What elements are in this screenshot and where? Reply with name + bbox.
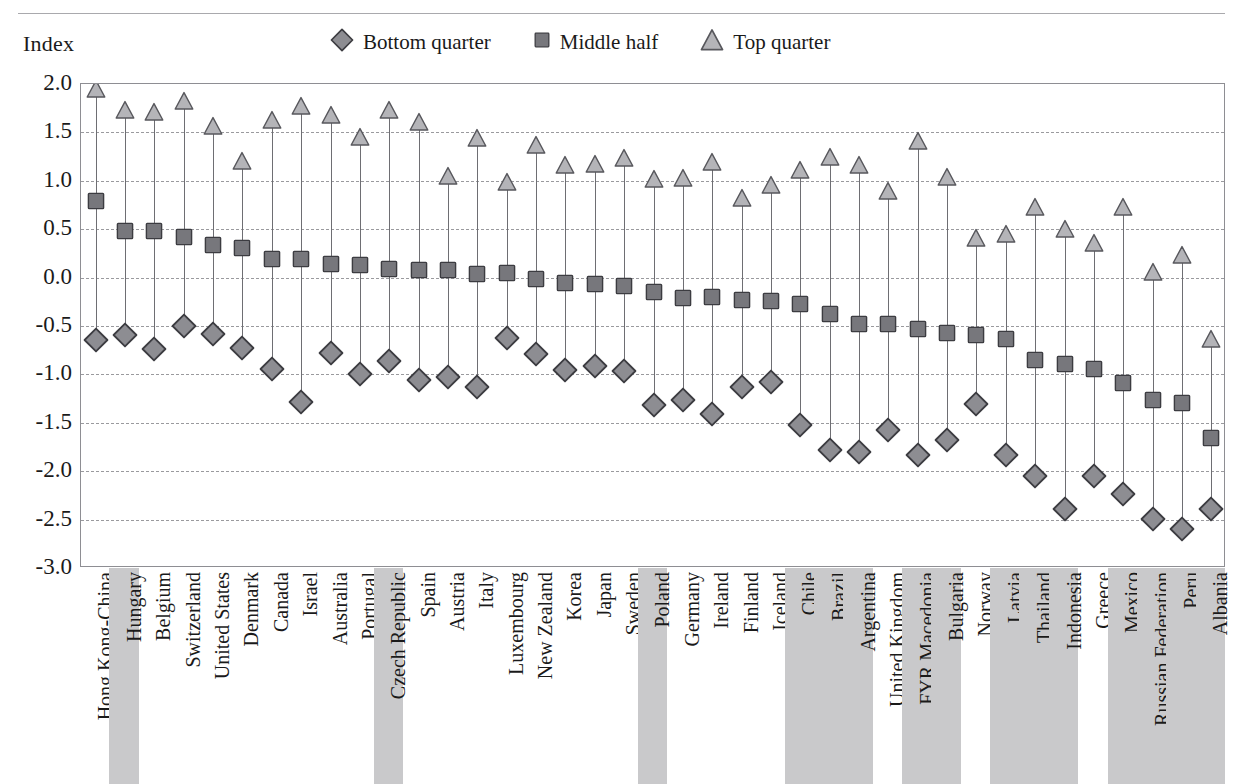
legend-item-top-quarter: Top quarter (700, 28, 830, 56)
data-point-square (291, 249, 311, 273)
diamond-icon (330, 28, 354, 56)
x-axis-category: Poland (638, 568, 667, 784)
data-point-square (1055, 354, 1075, 378)
data-point-square (321, 254, 341, 278)
data-point-triangle (1143, 262, 1163, 286)
data-point-square (174, 227, 194, 251)
range-stem (419, 124, 420, 382)
gridline (81, 471, 1224, 472)
legend-item-middle-half: Middle half (533, 30, 659, 55)
x-axis-category: Italy (462, 568, 491, 784)
range-stem (1035, 209, 1036, 478)
data-point-triangle (614, 148, 634, 172)
data-point-square (849, 314, 869, 338)
data-point-triangle (1201, 329, 1221, 353)
range-stem (624, 160, 625, 374)
x-axis-label-band: Hong Kong-ChinaHungaryBelgiumSwitzerland… (80, 568, 1225, 784)
data-point-square (115, 221, 135, 245)
data-point-square (937, 323, 957, 347)
y-tick-label: 1.5 (8, 118, 72, 144)
data-point-diamond (1140, 506, 1166, 536)
data-point-diamond (582, 353, 608, 383)
data-point-triangle (262, 110, 282, 134)
data-point-diamond (406, 367, 432, 397)
data-point-triangle (497, 172, 517, 196)
x-axis-category: Austria (432, 568, 461, 784)
data-point-square (761, 291, 781, 315)
data-point-square (497, 263, 517, 287)
data-point-diamond (523, 341, 549, 371)
data-point-diamond (200, 321, 226, 351)
data-point-triangle (585, 154, 605, 178)
data-point-triangle (379, 100, 399, 124)
data-point-triangle (702, 152, 722, 176)
data-point-triangle (467, 128, 487, 152)
gridline (81, 326, 1224, 327)
x-axis-category: Australia (315, 568, 344, 784)
x-axis-category: Finland (726, 568, 755, 784)
data-point-diamond (288, 389, 314, 419)
x-axis-category: Bulgaria (931, 568, 960, 784)
data-point-square (585, 274, 605, 298)
data-point-square (966, 325, 986, 349)
x-axis-category: Hungary (109, 568, 138, 784)
x-axis-category: Canada (256, 568, 285, 784)
range-stem (771, 187, 772, 384)
gridline (81, 229, 1224, 230)
x-axis-category: Ireland (697, 568, 726, 784)
data-point-triangle (937, 167, 957, 191)
data-point-square (409, 260, 429, 284)
gridline (81, 132, 1224, 133)
x-axis-category: Spain (403, 568, 432, 784)
x-axis-category: Russian Federation (1137, 568, 1166, 784)
data-point-triangle (86, 83, 106, 103)
data-point-triangle (144, 102, 164, 126)
data-point-diamond (1081, 463, 1107, 493)
x-axis-category: Iceland (755, 568, 784, 784)
range-stem (1211, 341, 1212, 511)
x-axis-category: United States (197, 568, 226, 784)
x-axis-category: Luxembourg (491, 568, 520, 784)
range-stem (859, 167, 860, 454)
y-tick-label: -2.0 (8, 457, 72, 483)
data-point-square (438, 260, 458, 284)
plot-area (80, 83, 1225, 567)
data-point-square (144, 221, 164, 245)
data-point-square (379, 259, 399, 283)
range-stem (976, 240, 977, 406)
chart-legend: Bottom quarterMiddle halfTop quarter (330, 28, 830, 56)
data-point-triangle (878, 181, 898, 205)
data-point-diamond (1169, 516, 1195, 546)
range-stem (947, 179, 948, 442)
data-point-diamond (875, 417, 901, 447)
data-point-diamond (171, 313, 197, 343)
data-point-triangle (849, 155, 869, 179)
data-point-triangle (1113, 197, 1133, 221)
data-point-square (1172, 393, 1192, 417)
data-point-diamond (318, 340, 344, 370)
data-point-diamond (963, 391, 989, 421)
page-top-rule (18, 13, 1225, 14)
x-axis-category: Greece (1078, 568, 1107, 784)
data-point-square (1025, 350, 1045, 374)
data-point-diamond (112, 322, 138, 352)
data-point-square (996, 329, 1016, 353)
x-axis-category: Portugal (344, 568, 373, 784)
data-point-triangle (1172, 245, 1192, 269)
axis-caption: Index (23, 31, 74, 57)
data-point-triangle (996, 224, 1016, 248)
data-point-square (1113, 373, 1133, 397)
x-axis-category: Thailand (1019, 568, 1048, 784)
data-point-diamond (758, 369, 784, 399)
data-point-diamond (494, 325, 520, 355)
x-axis-category: United Kingdom (873, 568, 902, 784)
data-point-square (86, 191, 106, 215)
data-point-square (644, 282, 664, 306)
range-stem (918, 143, 919, 457)
range-stem (331, 117, 332, 355)
x-axis-category: New Zealand (520, 568, 549, 784)
data-point-diamond (699, 401, 725, 431)
data-point-square (350, 255, 370, 279)
y-tick-label: 0.0 (8, 264, 72, 290)
data-point-triangle (820, 147, 840, 171)
